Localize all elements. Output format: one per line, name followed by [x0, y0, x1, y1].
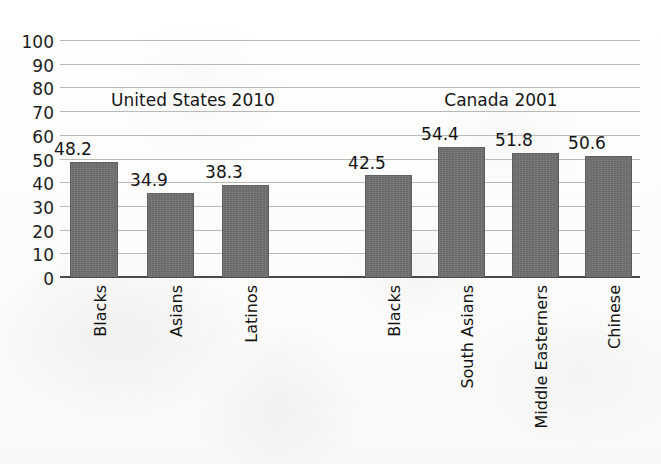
- y-tick-label: 100: [2, 34, 54, 51]
- bar-chart-figure: 100 90 80 70 60 50 40 30 20 10 0 48.2: [0, 0, 661, 464]
- bar-ca-chinese[interactable]: [585, 156, 632, 277]
- x-label-ca-chinese: Chinese: [607, 285, 623, 349]
- y-tick-label: 40: [2, 176, 54, 193]
- y-tick-label: 60: [2, 129, 54, 146]
- y-tick-label: 0: [2, 271, 54, 288]
- x-label-us-blacks: Blacks: [93, 285, 109, 337]
- x-label-us-latinos: Latinos: [244, 285, 260, 343]
- x-label-ca-middle-easterners: Middle Easterners: [534, 285, 550, 429]
- bar-us-blacks[interactable]: [70, 162, 118, 277]
- y-axis: 100 90 80 70 60 50 40 30 20 10 0: [0, 40, 54, 277]
- gridline-60: [60, 135, 640, 136]
- gridline-70: [60, 111, 640, 112]
- y-tick-label: 90: [2, 58, 54, 75]
- group-title-united-states: United States 2010: [98, 92, 288, 109]
- group-title-canada: Canada 2001: [443, 92, 559, 109]
- x-label-ca-blacks: Blacks: [387, 285, 403, 337]
- y-tick-label: 20: [2, 224, 54, 241]
- bar-ca-south-asians[interactable]: [438, 147, 485, 277]
- bar-us-latinos[interactable]: [222, 185, 269, 277]
- gridline-100: [60, 40, 640, 41]
- gridline-80: [60, 87, 640, 88]
- bar-ca-blacks[interactable]: [365, 175, 412, 277]
- bar-value-us-blacks: 48.2: [50, 141, 96, 158]
- gridline-90: [60, 64, 640, 65]
- x-label-us-asians: Asians: [169, 285, 185, 337]
- y-tick-label: 30: [2, 200, 54, 217]
- bar-ca-middle-easterners[interactable]: [512, 153, 559, 277]
- y-tick-label: 10: [2, 247, 54, 264]
- bar-value-us-latinos: 38.3: [201, 164, 247, 181]
- bar-value-ca-chinese: 50.6: [564, 135, 610, 152]
- x-label-ca-south-asians: South Asians: [460, 285, 476, 389]
- bar-value-ca-south-asians: 54.4: [417, 126, 463, 143]
- bar-us-asians[interactable]: [147, 193, 194, 277]
- bar-value-ca-blacks: 42.5: [344, 155, 390, 172]
- bar-value-us-asians: 34.9: [126, 172, 172, 189]
- bar-value-ca-middle-easterners: 51.8: [491, 132, 537, 149]
- y-tick-label: 80: [2, 81, 54, 98]
- y-tick-label: 50: [2, 153, 54, 170]
- y-tick-label: 70: [2, 105, 54, 122]
